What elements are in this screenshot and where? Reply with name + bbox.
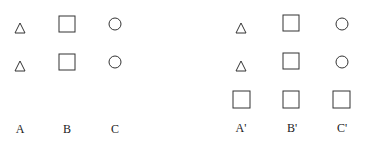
label-b: B xyxy=(63,122,71,137)
label-c-prime: C' xyxy=(337,121,347,136)
label-c: C xyxy=(111,122,119,137)
shape-diagram xyxy=(0,0,365,153)
circle-icon xyxy=(109,18,121,30)
label-b-prime: B' xyxy=(287,121,297,136)
square-icon xyxy=(333,91,350,108)
triangle-icon xyxy=(236,61,246,71)
triangle-icon xyxy=(236,23,246,33)
label-a: A xyxy=(16,122,25,137)
square-icon xyxy=(283,53,299,69)
circle-icon xyxy=(336,56,348,68)
circle-icon xyxy=(109,56,121,68)
square-icon xyxy=(283,15,299,31)
square-icon xyxy=(283,91,299,108)
square-icon xyxy=(59,54,75,70)
triangle-icon xyxy=(15,61,25,71)
circle-icon xyxy=(336,18,348,30)
square-icon xyxy=(233,91,250,108)
label-a-prime: A' xyxy=(236,121,247,136)
square-icon xyxy=(59,16,75,32)
triangle-icon xyxy=(15,23,25,33)
